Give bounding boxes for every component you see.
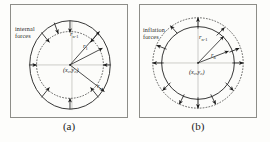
panel-a-caption: (a) [10, 120, 128, 132]
panel-b-caption: (b) [139, 120, 257, 132]
panel-a-center-label: (x₀,y₀) [63, 66, 78, 73]
figure-container: internal forces rn-1 r1 rn (x₀,y₀) (a) [0, 0, 270, 142]
panel-a-vector-label-3: rn [97, 82, 102, 91]
panel-a-vector-label-2: r1 [83, 42, 88, 51]
panel-b [139, 4, 257, 118]
panel-b-vector-label-2: rn [211, 51, 216, 60]
panel-a [10, 4, 128, 118]
panel-b-center-label: (x₀,y₀) [189, 68, 204, 75]
panel-b-force-label: inflation forces [143, 26, 165, 41]
panel-b-center-point [197, 62, 199, 64]
panel-b-graphic [140, 5, 256, 117]
panel-b-vector-label-1: rn-1 [199, 33, 207, 42]
panel-a-force-label: internal forces [15, 25, 35, 40]
panel-a-graphic [11, 5, 127, 117]
panel-a-vector-label-1: rn-1 [70, 30, 78, 39]
